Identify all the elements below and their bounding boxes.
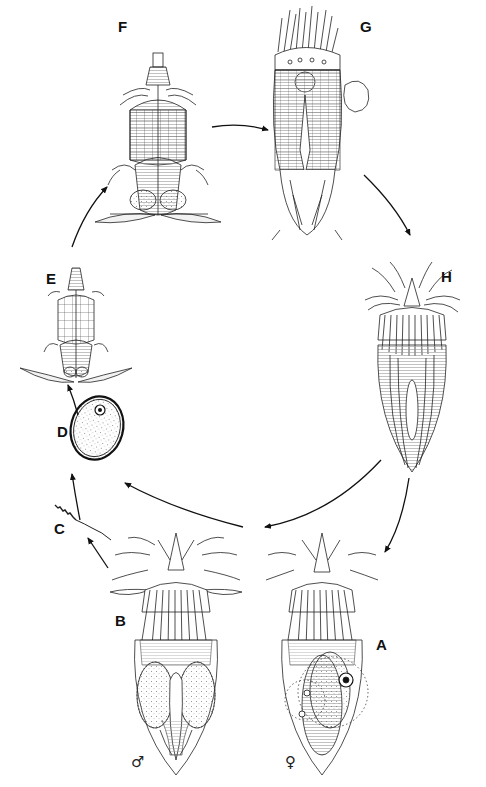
arrow-e-to-f	[72, 187, 107, 247]
stage-h-organism	[365, 262, 460, 472]
life-cycle-diagram	[0, 0, 486, 787]
arrow-c-to-d	[72, 474, 80, 520]
stage-a-organism	[266, 533, 378, 775]
arrow-b-to-d	[125, 483, 243, 527]
female-symbol: ♀	[285, 753, 296, 771]
cycle-arrows	[68, 125, 410, 568]
arrow-h-to-a	[385, 478, 409, 552]
stage-e-organism	[20, 268, 132, 382]
stage-label-h: H	[441, 268, 452, 285]
arrow-h-to-b	[265, 460, 381, 527]
stage-label-a: A	[376, 636, 387, 653]
male-symbol: ♂	[131, 753, 144, 771]
stage-b-organism	[110, 533, 242, 775]
arrow-g-to-h	[364, 175, 410, 235]
stage-g-organism	[272, 6, 369, 240]
stage-label-e: E	[46, 270, 56, 287]
stage-label-b: B	[115, 612, 126, 629]
stage-label-d: D	[57, 423, 68, 440]
arrow-b-to-c	[88, 538, 108, 568]
stage-f-organism	[95, 53, 221, 223]
stage-label-c: C	[54, 520, 65, 537]
stage-label-g: G	[360, 18, 372, 35]
arrow-f-to-g	[212, 125, 268, 130]
stage-label-f: F	[118, 18, 127, 35]
